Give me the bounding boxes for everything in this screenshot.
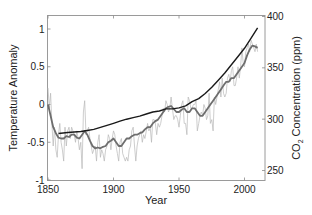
chart: 1850190019502000-1-0.500.51250300350400 … xyxy=(0,0,312,215)
x-axis-title: Year xyxy=(145,194,168,206)
x-tick-label: 2000 xyxy=(233,184,256,195)
y-tick-label: -0.5 xyxy=(27,137,45,148)
y2-tick-label: 400 xyxy=(267,11,284,22)
y2-tick-label: 350 xyxy=(267,62,284,73)
y2-tick-label: 250 xyxy=(267,165,284,176)
x-tick-label: 1900 xyxy=(102,184,125,195)
y-tick-label: 0.5 xyxy=(31,61,45,72)
x-tick-label: 1950 xyxy=(168,184,191,195)
y2-axis-title: CO2 Concentration (ppm) xyxy=(290,36,304,160)
plot-area xyxy=(48,16,266,181)
y2-tick-label: 300 xyxy=(267,114,284,125)
x-tick-label: 1850 xyxy=(37,184,60,195)
y-tick-label: -1 xyxy=(36,175,45,186)
y-axis-title: Temperature Anomaly xyxy=(7,44,19,151)
y-tick-label: 1 xyxy=(39,24,45,35)
y-tick-label: 0 xyxy=(39,99,45,110)
y2-axis-title-co: CO xyxy=(290,143,302,160)
y2-axis-title-rest: Concentration (ppm) xyxy=(290,36,302,139)
